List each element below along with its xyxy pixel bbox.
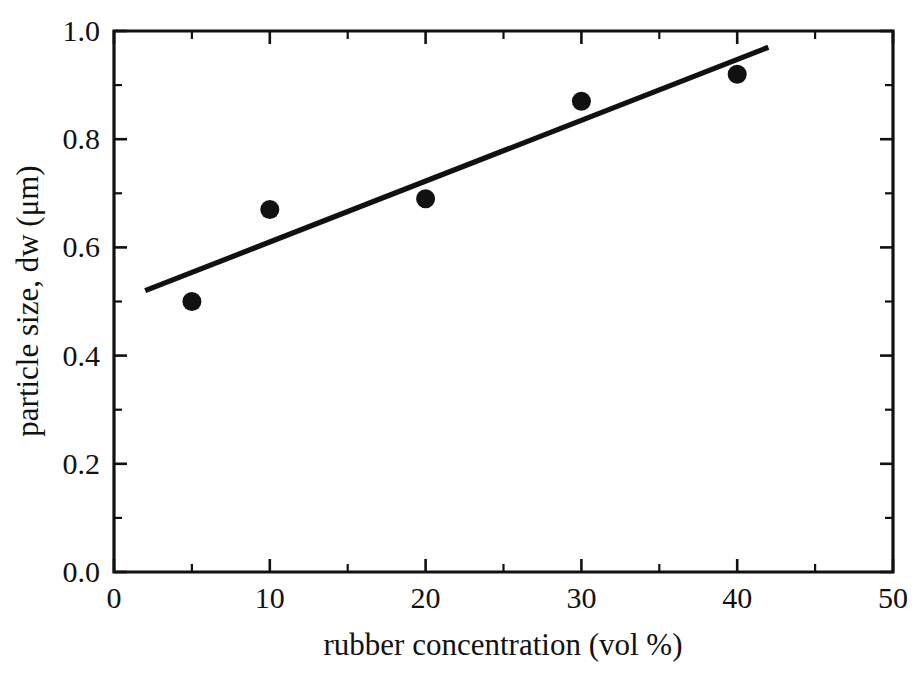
y-tick-label: 0.4 <box>63 339 101 372</box>
data-point-markers <box>182 65 746 311</box>
y-axis-major-ticks <box>114 31 893 572</box>
data-point <box>416 189 435 208</box>
data-point <box>728 65 747 84</box>
x-axis-tick-labels: 01020304050 <box>107 581 909 614</box>
chart-figure: 01020304050 0.00.20.40.60.81.0 rubber co… <box>0 0 924 677</box>
data-point <box>182 292 201 311</box>
x-tick-label: 50 <box>878 581 908 614</box>
y-tick-label: 0.8 <box>63 122 101 155</box>
trend-line <box>145 47 768 290</box>
scatter-plot: 01020304050 0.00.20.40.60.81.0 rubber co… <box>0 0 924 677</box>
x-axis-title: rubber concentration (vol %) <box>324 627 683 662</box>
plot-frame <box>114 31 893 572</box>
data-point <box>572 92 591 111</box>
y-axis-tick-labels: 0.00.20.40.60.81.0 <box>63 14 101 588</box>
axis-frame-rect <box>114 31 893 572</box>
y-tick-label: 0.0 <box>63 555 101 588</box>
x-tick-label: 30 <box>566 581 596 614</box>
x-axis-minor-ticks <box>192 31 815 572</box>
y-axis-title: particle size, dw (μm) <box>10 165 45 436</box>
y-tick-label: 0.6 <box>63 230 101 263</box>
data-point <box>260 200 279 219</box>
x-tick-label: 40 <box>722 581 752 614</box>
x-tick-label: 10 <box>255 581 285 614</box>
x-tick-label: 0 <box>107 581 122 614</box>
x-tick-label: 20 <box>411 581 441 614</box>
y-tick-label: 1.0 <box>63 14 101 47</box>
regression-line <box>145 47 768 290</box>
y-tick-label: 0.2 <box>63 447 101 480</box>
x-axis-major-ticks <box>114 31 893 572</box>
